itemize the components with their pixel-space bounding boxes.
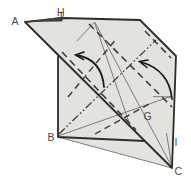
origami-step-figure: A H B G I C <box>0 0 191 185</box>
crease-line-short-right <box>153 97 171 98</box>
point-label-c: C <box>175 165 183 177</box>
point-label-a: A <box>12 15 19 27</box>
point-label-g: G <box>144 110 152 122</box>
point-label-i: I <box>175 136 178 148</box>
point-label-h: H <box>57 6 65 18</box>
origami-diagram-canvas: A H B G I C <box>0 0 191 185</box>
point-label-b: B <box>48 131 55 143</box>
